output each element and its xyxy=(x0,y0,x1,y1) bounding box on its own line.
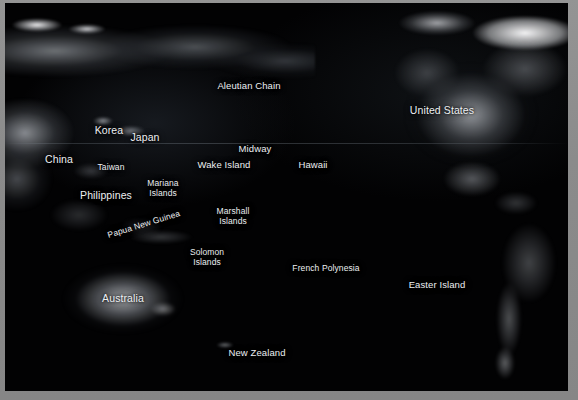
map-label-china: China xyxy=(45,153,73,165)
map-label-mariana-islands: Mariana Islands xyxy=(147,179,178,199)
graticule-line xyxy=(5,143,568,144)
map-label-philippines: Philippines xyxy=(80,189,132,201)
map-label-japan: Japan xyxy=(130,131,159,143)
map-label-korea: Korea xyxy=(95,124,124,136)
map-label-australia: Australia xyxy=(102,292,144,304)
window-frame: Aleutian ChainUnited StatesKoreaJapanMid… xyxy=(0,0,578,400)
map-viewport[interactable]: Aleutian ChainUnited StatesKoreaJapanMid… xyxy=(5,3,568,391)
map-label-wake-island: Wake Island xyxy=(197,160,250,171)
map-label-marshall-islands: Marshall Islands xyxy=(217,207,250,227)
map-label-aleutian-chain: Aleutian Chain xyxy=(217,81,280,92)
map-label-french-polynesia: French Polynesia xyxy=(292,264,359,274)
map-label-new-zealand: New Zealand xyxy=(228,348,285,359)
map-label-united-states: United States xyxy=(410,104,474,116)
map-label-taiwan: Taiwan xyxy=(97,163,124,173)
map-label-solomon-islands: Solomon Islands xyxy=(190,248,224,268)
map-label-easter-island: Easter Island xyxy=(409,280,466,291)
map-label-midway: Midway xyxy=(239,144,272,155)
map-label-hawaii: Hawaii xyxy=(298,160,327,171)
